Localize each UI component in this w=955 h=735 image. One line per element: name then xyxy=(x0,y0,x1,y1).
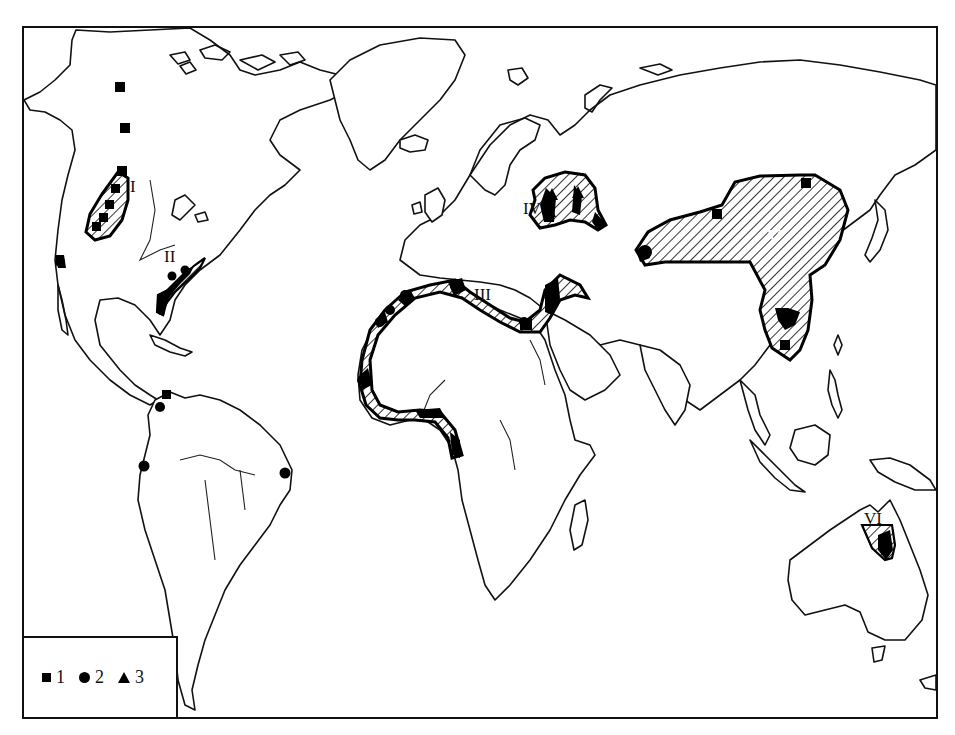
north-america xyxy=(24,28,350,405)
australia xyxy=(788,500,928,640)
region-label-V: V xyxy=(766,224,782,249)
legend-label: 2 xyxy=(95,667,104,688)
cuba xyxy=(150,335,192,356)
greenland xyxy=(330,38,465,170)
legend: 1 2 3 xyxy=(22,636,178,719)
british-isles xyxy=(412,188,445,222)
legend-item-3: 3 xyxy=(118,667,144,688)
madagascar xyxy=(570,500,588,550)
world-map: I II III IV V VI xyxy=(0,0,955,735)
indochina xyxy=(740,380,770,445)
region-label-VI: VI xyxy=(864,509,882,528)
legend-item-2: 2 xyxy=(79,667,104,688)
legend-label: 1 xyxy=(56,667,65,688)
legend-item-1: 1 xyxy=(42,667,65,688)
triangle-icon xyxy=(118,672,130,683)
iceland xyxy=(400,135,428,152)
borneo xyxy=(790,425,830,465)
region-label-IV: IV xyxy=(523,199,542,218)
legend-label: 3 xyxy=(135,667,144,688)
square-icon xyxy=(42,673,51,682)
circle-icon xyxy=(79,672,90,683)
region-label-I: I xyxy=(130,177,136,196)
region-label-III: III xyxy=(474,285,491,304)
new-guinea xyxy=(870,458,936,490)
tasmania xyxy=(872,646,885,662)
region-label-II: II xyxy=(164,247,176,266)
